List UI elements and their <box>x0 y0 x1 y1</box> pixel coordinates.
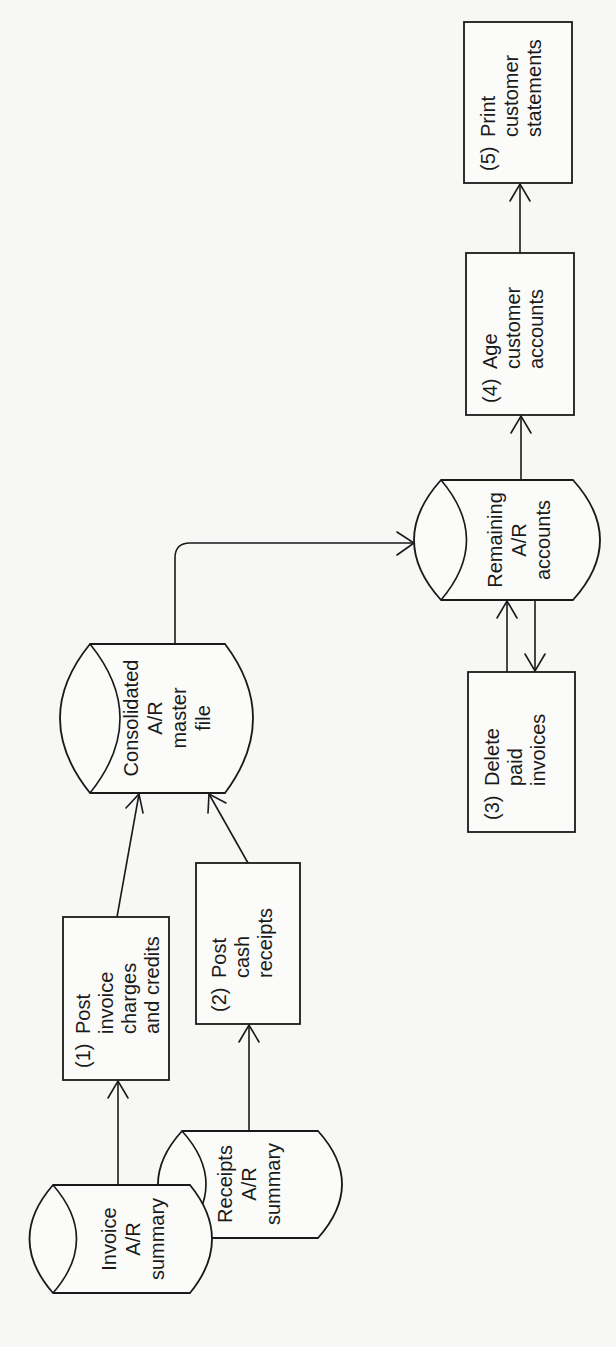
storage-label-line: summary <box>262 1143 284 1225</box>
storage-invoice-ar-summary[interactable]: Invoice A/R summary <box>30 1185 213 1293</box>
storage-label-line: accounts <box>532 500 554 580</box>
storage-label-line: A/R <box>122 1222 144 1255</box>
storage-remaining-ar-accounts[interactable]: Remaining A/R accounts <box>414 480 600 600</box>
process-number: (1) <box>72 1044 94 1068</box>
process-label-line: charges <box>118 963 140 1034</box>
process-label-line: invoice <box>95 972 117 1034</box>
arrow-consolidated-to-remaining <box>175 532 414 644</box>
process-step5-print-customer-statements[interactable]: (5) Print customer statements <box>464 22 572 183</box>
process-label-line: Age <box>479 333 501 369</box>
process-label-line: Post <box>72 994 94 1034</box>
process-number: (2) <box>208 988 230 1012</box>
process-step2-post-cash-receipts[interactable]: (2) Post cash receipts <box>196 863 300 1024</box>
process-step4-age-customer-accounts[interactable]: (4) Age customer accounts <box>466 253 574 415</box>
arrow-remaining-to-step4 <box>511 416 531 480</box>
process-label-line: and credits <box>141 936 163 1034</box>
process-label-line: statements <box>523 39 545 137</box>
process-step3-delete-paid-invoices[interactable]: (3) Delete paid invoices <box>468 672 575 832</box>
storage-label-line: A/R <box>508 523 530 556</box>
storage-label-line: A/R <box>144 701 166 734</box>
arrow-step4-to-step5 <box>510 184 530 253</box>
arrow-step3-to-remaining <box>497 601 517 672</box>
process-number: (4) <box>479 379 501 403</box>
process-label-line: paid <box>504 748 526 786</box>
storage-consolidated-ar-master-file[interactable]: Consolidated A/R master file <box>60 644 253 793</box>
storage-label-line: master <box>168 687 190 748</box>
arrow-step1-to-consolidated <box>117 794 143 917</box>
arrow-receipts-to-step2 <box>239 1025 259 1131</box>
process-number: (5) <box>477 147 499 171</box>
storage-label-line: Invoice <box>98 1207 120 1270</box>
arrow-invoice-to-step1 <box>108 1081 128 1185</box>
process-step1-post-invoice-charges[interactable]: (1) Post invoice charges and credits <box>63 917 169 1080</box>
cylinder-shape <box>414 480 600 600</box>
storage-label-line: file <box>192 705 214 731</box>
process-label-line: invoices <box>527 714 549 786</box>
process-label-line: receipts <box>254 908 276 978</box>
storage-label-line: Receipts <box>214 1145 236 1223</box>
arrow-step2-to-consolidated <box>208 794 248 863</box>
process-label-line: cash <box>231 936 253 978</box>
flowchart-canvas: Receipts A/R summary Invoice A/R summary… <box>0 0 616 1347</box>
process-label-line: accounts <box>525 289 547 369</box>
process-label-line: customer <box>500 54 522 137</box>
process-label-line: Print <box>477 95 499 137</box>
process-label-line: Post <box>208 938 230 978</box>
process-label-line: Delete <box>481 728 503 786</box>
process-number: (3) <box>481 796 503 820</box>
storage-label-line: Remaining <box>484 492 506 588</box>
storage-label-line: A/R <box>238 1167 260 1200</box>
storage-label-line: Consolidated <box>120 660 142 777</box>
cylinder-shape <box>30 1185 213 1293</box>
storage-label-line: summary <box>146 1198 168 1280</box>
process-label-line: customer <box>502 286 524 369</box>
arrow-remaining-to-step3 <box>525 601 545 671</box>
